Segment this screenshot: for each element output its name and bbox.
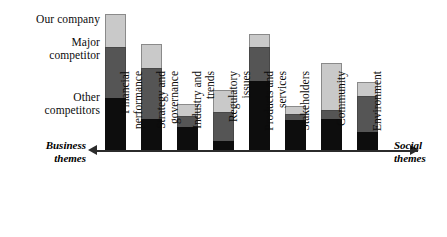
bar-segment <box>141 44 162 69</box>
category-tick-label: Products and services <box>263 71 289 155</box>
category-tick-label: Regulatory issues <box>227 71 253 155</box>
category-tick-label: Financial performance <box>119 71 145 155</box>
bar-segment <box>105 14 126 48</box>
category-tick-labels: Financial performanceStrategy and govern… <box>0 151 447 237</box>
category-tick-label: Industry and trends <box>191 71 217 155</box>
category-tick-label: Community <box>335 71 348 155</box>
category-tick-label: Strategy and governance <box>155 71 181 155</box>
category-tick-label: Environment <box>371 71 384 155</box>
category-tick-label: Stakeholders <box>299 71 312 155</box>
materiality-chart: Our company Major competitor Other compe… <box>0 0 447 237</box>
bar-segment <box>249 34 270 48</box>
